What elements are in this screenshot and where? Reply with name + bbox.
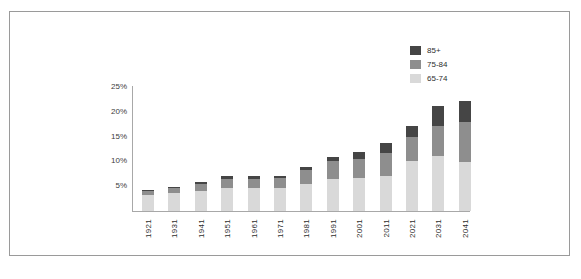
x-axis-tick-label-2001: 2001 — [355, 219, 364, 238]
bar-1981 — [300, 167, 312, 211]
legend-swatch-icon — [410, 74, 421, 83]
bar-1991 — [327, 157, 339, 211]
bar-2031 — [432, 106, 444, 211]
bar-segment-65-74 — [327, 179, 339, 211]
legend-label: 75-84 — [427, 60, 447, 69]
x-axis-tick-label-2041: 2041 — [461, 219, 470, 238]
bar-1971 — [274, 176, 286, 211]
bar-segment-65-74 — [353, 178, 365, 211]
y-axis-tick-label: 10% — [100, 156, 127, 165]
bar-segment-65-74 — [406, 161, 418, 211]
x-axis-tick-label-2011: 2011 — [382, 219, 391, 237]
x-axis-line — [132, 211, 470, 212]
x-axis-tick-label-2021: 2021 — [408, 219, 417, 238]
x-axis-tick-label-2031: 2031 — [434, 219, 443, 238]
y-axis-tick-15: 15% — [100, 132, 127, 142]
bar-segment-75-84 — [195, 184, 207, 191]
x-axis-tick-label-1991: 1991 — [329, 219, 338, 238]
y-axis-tick-label: 5% — [100, 181, 127, 190]
x-axis-tick-label-1931: 1931 — [170, 219, 179, 238]
bar-segment-75-84 — [327, 161, 339, 178]
bar-segment-75-84 — [274, 178, 286, 188]
bar-segment-75-84 — [353, 159, 365, 178]
y-axis-tick-10: 10% — [100, 156, 127, 166]
x-axis-tick-label-1981: 1981 — [302, 219, 311, 238]
y-axis-tick-25: 25% — [100, 82, 127, 92]
legend: 85+75-8465-74 — [410, 44, 447, 86]
bar-segment-65-74 — [248, 188, 260, 211]
bar-1921 — [142, 190, 154, 211]
bar-1941 — [195, 182, 207, 211]
bar-segment-75-84 — [432, 126, 444, 156]
bar-2041 — [459, 101, 471, 211]
y-axis-tick-20: 20% — [100, 107, 127, 117]
legend-label: 65-74 — [427, 74, 447, 83]
x-axis-tick-label-1961: 1961 — [250, 219, 259, 238]
bar-segment-75-84 — [300, 170, 312, 184]
bar-segment-75-84 — [221, 179, 233, 188]
bar-segment-65-74 — [142, 195, 154, 211]
bar-segment-65-74 — [380, 176, 392, 211]
x-axis-tick-label-1921: 1921 — [144, 219, 153, 238]
y-axis-tick-label: 15% — [100, 132, 127, 141]
bar-segment-75-84 — [248, 179, 260, 188]
plot-area: 5%10%15%20%25% 1921193119411951196119711… — [0, 0, 581, 279]
bar-segment-75-84 — [459, 122, 471, 162]
x-axis-tick-label-1971: 1971 — [276, 219, 285, 238]
legend-item-85+: 85+ — [410, 44, 447, 57]
legend-item-65-74: 65-74 — [410, 72, 447, 85]
bar-2021 — [406, 126, 418, 211]
bar-1931 — [168, 187, 180, 211]
bar-segment-65-74 — [300, 184, 312, 211]
bar-segment-65-74 — [221, 188, 233, 211]
bar-1961 — [248, 176, 260, 211]
bar-segment-65-74 — [432, 156, 444, 211]
figure: 5%10%15%20%25% 1921193119411951196119711… — [0, 0, 581, 279]
bar-segment-65-74 — [168, 193, 180, 211]
y-axis-tick-label: 25% — [100, 82, 127, 91]
bar-2001 — [353, 152, 365, 211]
bar-segment-85+ — [380, 143, 392, 153]
bar-segment-75-84 — [406, 137, 418, 161]
x-axis-tick-label-1951: 1951 — [223, 219, 232, 238]
legend-item-75-84: 75-84 — [410, 58, 447, 71]
bar-segment-85+ — [459, 101, 471, 122]
y-axis-line — [132, 86, 133, 212]
legend-swatch-icon — [410, 60, 421, 69]
bar-segment-85+ — [353, 152, 365, 159]
bar-segment-65-74 — [274, 188, 286, 211]
y-axis-tick-5: 5% — [100, 181, 127, 191]
x-axis-tick-label-1941: 1941 — [197, 219, 206, 238]
bar-segment-85+ — [406, 126, 418, 137]
legend-swatch-icon — [410, 46, 421, 55]
bar-segment-85+ — [432, 106, 444, 126]
bar-segment-65-74 — [459, 162, 471, 211]
bar-2011 — [380, 143, 392, 211]
bar-segment-75-84 — [380, 153, 392, 176]
bar-segment-65-74 — [195, 191, 207, 211]
bar-1951 — [221, 176, 233, 211]
legend-label: 85+ — [427, 46, 441, 55]
y-axis-tick-label: 20% — [100, 107, 127, 116]
